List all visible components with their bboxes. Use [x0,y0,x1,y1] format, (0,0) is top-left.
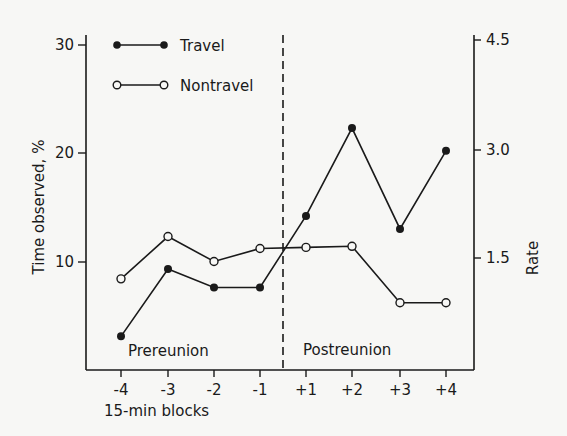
filled-circle-marker-icon [113,41,121,49]
data-point-nontravel [210,258,218,266]
x-tick-m2: -2 [207,381,222,399]
open-circle-marker-icon [113,81,121,89]
y-right-tick-3-0: 3.0 [486,141,510,159]
data-point-nontravel [442,299,450,307]
data-point-travel [210,284,218,292]
x-tick-p2: +2 [341,381,363,399]
y-left-tick-10: 10 [55,253,74,271]
y-left-tick-20: 20 [55,144,74,162]
data-point-nontravel [256,244,264,252]
y-left-axis-title: Time observed, % [30,140,48,276]
legend-travel: Travel [179,37,225,55]
filled-circle-marker-icon [160,41,168,49]
postreunion-label: Postreunion [303,341,391,359]
x-tick-p3: +3 [389,381,411,399]
x-tick-m3: -3 [161,381,176,399]
data-point-nontravel [348,242,356,250]
data-point-nontravel [396,299,404,307]
legend-nontravel: Nontravel [180,77,253,95]
data-point-nontravel [302,243,310,251]
data-point-travel [348,124,356,132]
x-tick-p1: +1 [295,381,317,399]
x-tick-labels: -4 -3 -2 -1 +1 +2 +3 +4 [114,381,458,399]
x-tick-m1: -1 [253,381,268,399]
data-point-travel [302,212,310,220]
prereunion-label: Prereunion [128,342,209,360]
data-point-travel [442,147,450,155]
y-left-ticks: 10 20 30 [55,36,86,271]
legend: Travel Nontravel [113,37,253,95]
x-tick-m4: -4 [114,381,129,399]
chart: 10 20 30 1.5 3.0 4.5 -4 -3 -2 -1 +1 +2 +… [0,0,567,436]
y-right-ticks: 1.5 3.0 4.5 [474,31,510,267]
x-ticks [121,370,446,377]
y-right-tick-4-5: 4.5 [486,31,510,49]
data-point-travel [117,332,125,340]
y-right-axis-title: Rate [524,241,542,275]
data-point-nontravel [164,233,172,241]
data-point-nontravel [117,275,125,283]
x-tick-p4: +4 [435,381,457,399]
data-point-travel [396,225,404,233]
y-left-tick-30: 30 [55,36,74,54]
data-point-travel [256,284,264,292]
open-circle-marker-icon [160,81,168,89]
y-right-tick-1-5: 1.5 [486,249,510,267]
x-axis-title: 15-min blocks [104,402,209,420]
data-point-travel [164,265,172,273]
